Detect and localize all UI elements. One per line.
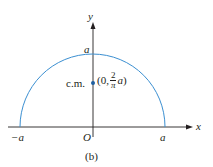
center-of-mass-coordinates: (0, 2 π a ) <box>97 71 127 90</box>
y-axis-label: y <box>88 11 93 22</box>
coord-open: (0, <box>97 75 109 86</box>
center-of-mass-label: c.m. <box>66 78 85 89</box>
x-axis-label: x <box>196 121 201 132</box>
tick-label-top-a: a <box>84 44 90 55</box>
tick-label-neg-a: −a <box>11 132 24 143</box>
figure-caption: (b) <box>85 151 98 162</box>
y-axis-arrow-icon <box>91 22 96 29</box>
coord-close: ) <box>123 75 127 86</box>
fraction-denominator: π <box>111 81 116 90</box>
semicircle-curve <box>20 54 165 127</box>
fraction-two-over-pi: 2 π <box>110 71 117 90</box>
origin-label: O <box>83 132 91 143</box>
x-axis-arrow-icon <box>186 125 193 130</box>
tick-label-pos-a: a <box>160 132 166 143</box>
center-of-mass-point <box>91 81 95 85</box>
